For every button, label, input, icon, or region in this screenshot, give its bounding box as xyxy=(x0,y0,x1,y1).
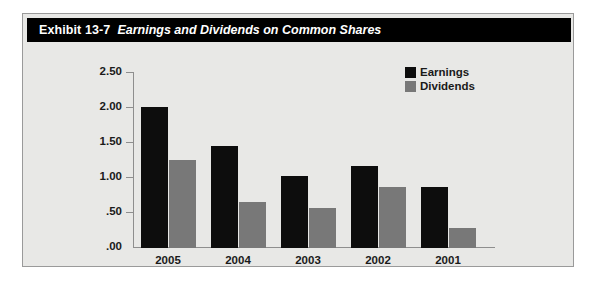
bar-earnings xyxy=(141,107,168,248)
y-axis-label: 2.50 xyxy=(50,65,122,77)
exhibit-number-label: Exhibit 13-7 xyxy=(39,23,110,37)
y-axis-label: .50 xyxy=(50,205,122,217)
bar-dividends xyxy=(169,160,196,248)
x-axis-label: 2001 xyxy=(413,254,483,266)
chart-legend: Earnings Dividends xyxy=(405,66,475,94)
exhibit-frame: Exhibit 13-7 Earnings and Dividends on C… xyxy=(22,13,574,267)
x-axis-label: 2005 xyxy=(133,254,203,266)
exhibit-title-bar: Exhibit 13-7 Earnings and Dividends on C… xyxy=(27,18,571,42)
bar-earnings xyxy=(351,166,378,248)
y-axis-label: .00 xyxy=(50,240,122,252)
y-axis-label: 1.00 xyxy=(50,170,122,182)
bar-dividends xyxy=(379,187,406,248)
bar-earnings xyxy=(211,146,238,248)
legend-label: Dividends xyxy=(420,80,475,92)
legend-swatch-icon xyxy=(405,81,416,92)
bar-dividends xyxy=(309,208,336,248)
legend-item-earnings: Earnings xyxy=(405,66,475,78)
bar-earnings xyxy=(281,176,308,249)
bar-earnings xyxy=(421,187,448,248)
chart-plate: 2.50 2.00 1.50 1.00 .50 .00 xyxy=(27,42,571,264)
y-axis-label: 1.50 xyxy=(50,135,122,147)
legend-label: Earnings xyxy=(420,66,469,78)
bar-dividends xyxy=(239,202,266,248)
bar-dividends xyxy=(449,228,476,248)
x-axis-label: 2003 xyxy=(273,254,343,266)
exhibit-title-text: Earnings and Dividends on Common Shares xyxy=(117,23,381,37)
x-axis-label: 2002 xyxy=(343,254,413,266)
x-axis-label: 2004 xyxy=(203,254,273,266)
plot-area xyxy=(133,72,493,248)
legend-swatch-icon xyxy=(405,67,416,78)
y-axis-label: 2.00 xyxy=(50,100,122,112)
legend-item-dividends: Dividends xyxy=(405,80,475,92)
